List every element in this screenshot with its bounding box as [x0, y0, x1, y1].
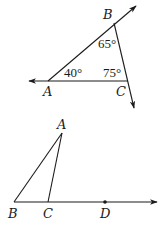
point-label-a2: A — [56, 117, 66, 132]
geometry-diagrams: B A C 65° 40° 75° A B C D — [0, 0, 165, 234]
figure-2-triangle-with-ray: A B C D — [7, 117, 157, 221]
figure-1-triangle-abc: B A C 65° 40° 75° — [29, 6, 136, 108]
angle-label-b: 65° — [98, 36, 116, 51]
ray-ab — [48, 6, 136, 81]
point-label-d2: D — [99, 206, 111, 221]
point-label-b2: B — [7, 206, 18, 221]
point-label-c2: C — [43, 206, 53, 221]
point-label-a: A — [42, 84, 52, 99]
point-label-c: C — [116, 84, 126, 99]
angle-label-a: 40° — [64, 65, 82, 80]
point-label-b: B — [102, 7, 113, 22]
point-d-dot — [103, 200, 107, 204]
angle-label-c: 75° — [103, 65, 121, 80]
